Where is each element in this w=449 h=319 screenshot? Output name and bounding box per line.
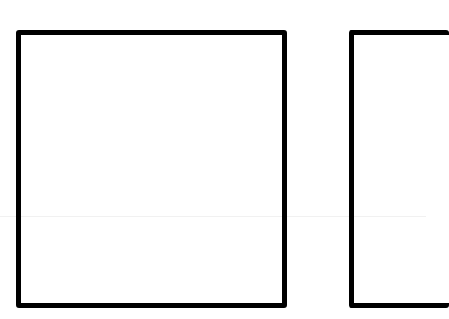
rectangle-box-right (349, 30, 449, 308)
rectangle-box-left (16, 30, 287, 308)
